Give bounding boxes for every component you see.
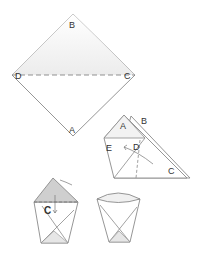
label-c: C bbox=[168, 166, 175, 176]
flip-arrow-icon bbox=[60, 180, 72, 185]
step-3-cup-folding: C bbox=[34, 178, 78, 243]
step-1-diamond: B D C A bbox=[12, 14, 135, 136]
label-d: D bbox=[133, 142, 140, 152]
origami-diagram: B D C A A B E D C C bbox=[0, 0, 203, 256]
label-b: B bbox=[69, 20, 75, 30]
step-2-folded-triangle: A B E D C bbox=[104, 115, 190, 178]
label-c: C bbox=[124, 71, 131, 81]
label-c: C bbox=[44, 205, 51, 216]
label-a: A bbox=[69, 125, 75, 135]
label-b: B bbox=[141, 116, 147, 126]
label-a: A bbox=[120, 121, 126, 131]
label-d: D bbox=[15, 71, 22, 81]
label-e: E bbox=[106, 143, 112, 153]
step-4-finished-cup bbox=[97, 193, 140, 242]
